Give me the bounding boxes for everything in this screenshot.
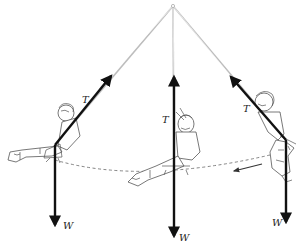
weight-label-left: W xyxy=(63,220,74,231)
motion-direction-arrow xyxy=(234,164,262,171)
weight-label-middle: W xyxy=(179,232,190,243)
weight-label-right: W xyxy=(272,217,283,228)
swing-force-diagram: T T T W W W xyxy=(0,0,302,243)
pivot-point xyxy=(171,4,174,7)
tension-label-right: T xyxy=(243,103,251,114)
child-figure-left xyxy=(8,104,80,164)
tension-label-middle: T xyxy=(162,114,170,125)
tension-vectors xyxy=(55,76,286,160)
ropes xyxy=(55,4,286,160)
tension-arrow-right xyxy=(231,77,286,140)
weight-vectors xyxy=(55,140,286,236)
child-figure-right xyxy=(255,91,296,182)
